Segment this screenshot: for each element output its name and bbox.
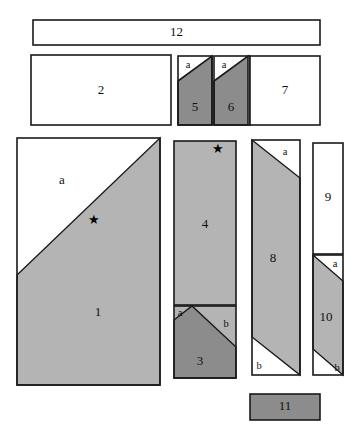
star-marker-piece-1: ★ [88,212,100,227]
piece-2-label: 2 [98,82,105,97]
corner-label-a-piece-6: a [222,59,227,70]
piece-5-label: 5 [192,99,199,114]
corner-label-b-piece-8: b [256,360,261,371]
piece-2-group: 2 [31,55,171,125]
piece-6-group: a 6 [214,56,250,125]
corner-label-a-piece-8: a [283,146,288,157]
corner-label-a-piece-5: a [186,59,191,70]
corner-label-b-piece-3: b [223,318,228,329]
piece-10-label: 10 [320,309,333,324]
piece-9-group: 9 [313,143,343,254]
dissection-figure: 12 2 a 5 a 6 7 [0,0,353,434]
piece-7-group: 7 [250,56,320,125]
corner-label-a-piece-3: a [178,307,183,318]
star-marker-piece-4: ★ [212,141,224,156]
piece-8-group: a 8 b [252,140,300,375]
piece-8-label: 8 [270,250,277,265]
piece-7-label: 7 [282,82,289,97]
piece-1-group: a 1 ★ [17,138,160,385]
piece-6-label: 6 [228,99,235,114]
piece-4-group: 4 ★ [174,141,236,305]
piece-3-group: a b 3 [174,306,236,378]
dissection-canvas: 12 2 a 5 a 6 7 [0,0,353,434]
piece-5-group: a 5 [178,56,212,125]
piece-3-label: 3 [197,353,204,368]
piece-1-label: 1 [95,304,102,319]
piece-11-group: 11 [250,394,320,420]
corner-label-a-piece-1: a [59,172,65,187]
piece-10-group: a 10 b [313,255,343,375]
piece-12-label: 12 [170,24,183,39]
piece-4-label: 4 [202,216,209,231]
piece-12-group: 12 [33,20,320,45]
piece-11-label: 11 [279,398,292,413]
corner-label-b-piece-10: b [334,362,339,373]
corner-label-a-piece-10: a [333,258,338,269]
piece-9-label: 9 [325,189,332,204]
